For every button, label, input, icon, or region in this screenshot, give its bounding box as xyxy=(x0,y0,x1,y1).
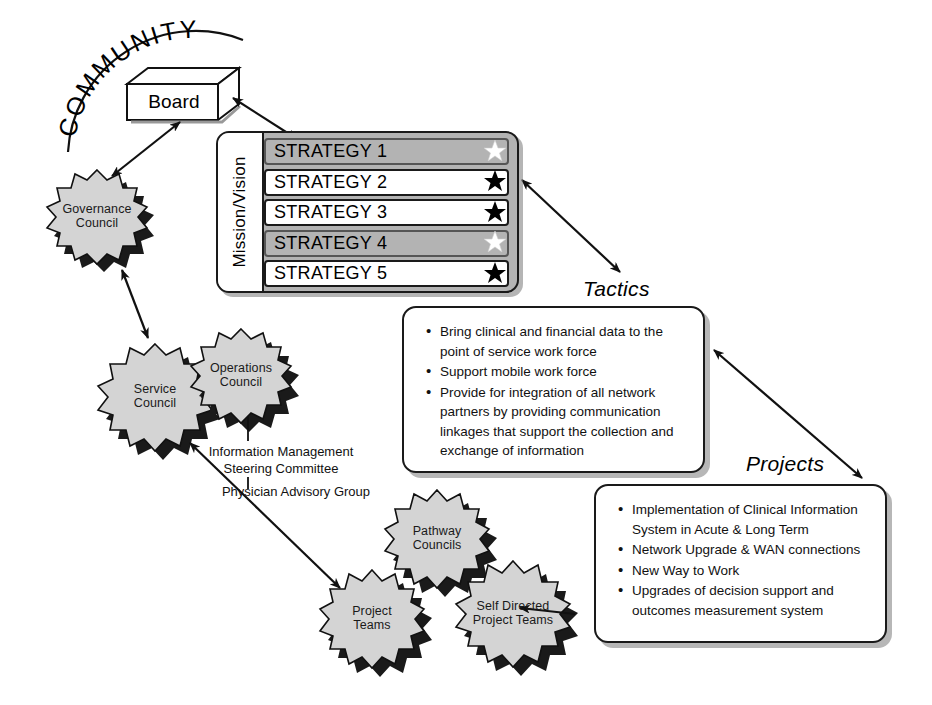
operations-council-node[interactable]: Operations Council xyxy=(191,329,291,421)
project-teams-node[interactable]: Project Teams xyxy=(320,570,424,666)
burst-line-1: Operations xyxy=(210,361,272,376)
burst-line-2: Project Teams xyxy=(473,613,553,628)
burst-line-2: Teams xyxy=(353,618,390,633)
self-directed-project-teams-node[interactable]: Self Directed Project Teams xyxy=(456,561,570,665)
burst-line-2: Councils xyxy=(413,538,462,553)
imsc-line-2: Steering Committee xyxy=(181,460,381,477)
strategy-row[interactable]: STRATEGY 1 xyxy=(264,138,509,165)
strategy-panel[interactable]: Mission/Vision STRATEGY 1 STRATEGY 2 STR… xyxy=(216,131,519,293)
operations-council-label: Operations Council xyxy=(191,329,291,421)
physician-advisory-group-label: Physician Advisory Group xyxy=(196,483,396,500)
burst-line-1: Project xyxy=(352,604,392,619)
burst-line-1: Governance xyxy=(62,202,131,217)
projects-caption: Projects xyxy=(746,452,824,476)
tactics-box[interactable]: Bring clinical and financial data to the… xyxy=(402,306,705,473)
diagram-canvas: COMMUNITY Board Mission/Vision STRATEGY … xyxy=(0,0,932,705)
arrow-governance-service xyxy=(122,270,148,338)
star-icon xyxy=(483,261,509,287)
arrow-strategy-tactics xyxy=(522,180,620,272)
burst-line-2: Council xyxy=(134,396,176,411)
burst-line-2: Council xyxy=(220,375,262,390)
star-icon xyxy=(483,230,509,256)
imsc-line-1: Information Management xyxy=(181,443,381,460)
board-node[interactable]: Board xyxy=(127,68,239,124)
information-management-steering-committee-label: Information Management Steering Committe… xyxy=(181,443,381,477)
tactics-bullet: Bring clinical and financial data to the… xyxy=(430,322,687,361)
star-icon xyxy=(483,200,509,226)
tactics-bullet: Provide for integration of all network p… xyxy=(430,383,687,461)
burst-line-1: Self Directed xyxy=(477,599,550,614)
star-icon xyxy=(483,139,509,165)
star-icon xyxy=(483,169,509,195)
projects-bullet: New Way to Work xyxy=(622,561,869,581)
arrow-board-governance xyxy=(112,122,180,176)
strategy-row[interactable]: STRATEGY 2 xyxy=(264,169,509,196)
governance-council-label: Governance Council xyxy=(47,170,147,262)
governance-council-node[interactable]: Governance Council xyxy=(47,170,147,262)
tactics-bullet-list: Bring clinical and financial data to the… xyxy=(404,308,703,461)
burst-line-1: Service xyxy=(134,382,176,397)
strategy-label: STRATEGY 2 xyxy=(266,172,507,193)
projects-bullet: Network Upgrade & WAN connections xyxy=(622,540,869,560)
burst-line-2: Council xyxy=(76,216,118,231)
strategy-row[interactable]: STRATEGY 3 xyxy=(264,199,509,226)
strategy-label: STRATEGY 3 xyxy=(266,202,507,223)
projects-box[interactable]: Implementation of Clinical Information S… xyxy=(594,484,887,643)
mission-vision-cell: Mission/Vision xyxy=(218,133,264,291)
burst-line-1: Pathway xyxy=(413,524,462,539)
self-directed-project-teams-label: Self Directed Project Teams xyxy=(456,561,570,665)
projects-bullet-list: Implementation of Clinical Information S… xyxy=(596,486,885,620)
project-teams-label: Project Teams xyxy=(320,570,424,666)
strategy-row[interactable]: STRATEGY 4 xyxy=(264,230,509,257)
mission-vision-label: Mission/Vision xyxy=(230,156,250,267)
strategy-label: STRATEGY 1 xyxy=(266,141,507,162)
strategy-row[interactable]: STRATEGY 5 xyxy=(264,260,509,287)
board-label: Board xyxy=(127,84,221,120)
strategy-label: STRATEGY 5 xyxy=(266,263,507,284)
tactics-caption: Tactics xyxy=(583,277,650,301)
strategy-row-list: STRATEGY 1 STRATEGY 2 STRATEGY 3 STRATEG… xyxy=(264,133,517,291)
projects-bullet: Implementation of Clinical Information S… xyxy=(622,500,869,539)
projects-bullet: Upgrades of decision support and outcome… xyxy=(622,581,869,620)
tactics-bullet: Support mobile work force xyxy=(430,362,687,382)
strategy-label: STRATEGY 4 xyxy=(266,233,507,254)
